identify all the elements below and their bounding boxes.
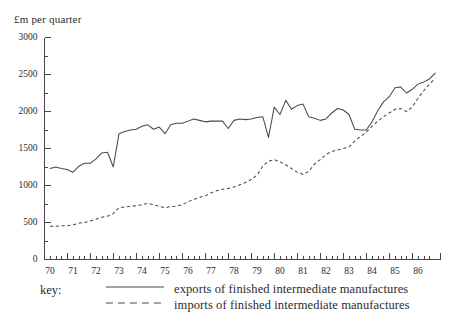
x-tick-label: 78 [224, 266, 244, 276]
chart-figure: £m per quarter 300025002000150010005000 … [0, 0, 456, 323]
x-tick-label: 75 [155, 266, 175, 276]
series-line [50, 73, 435, 172]
x-tick-label: 73 [109, 266, 129, 276]
legend-entry-exports: exports of finished intermediate manufac… [106, 282, 408, 297]
x-tick-label: 71 [63, 266, 83, 276]
y-tick-label: 0 [4, 254, 38, 264]
data-series [50, 73, 435, 226]
x-tick-label: 82 [316, 266, 336, 276]
x-tick-label: 79 [247, 266, 267, 276]
y-tick-label: 1000 [4, 180, 38, 190]
x-tick-label: 77 [201, 266, 221, 276]
y-tick-label: 2500 [4, 69, 38, 79]
x-tick-label: 81 [293, 266, 313, 276]
legend-key-label: key: [40, 283, 62, 298]
x-tick-label: 85 [385, 266, 405, 276]
x-tick-label: 86 [408, 266, 428, 276]
y-tick-label: 2000 [4, 106, 38, 116]
chart-legend: key: exports of finished intermediate ma… [0, 281, 456, 323]
legend-label-exports: exports of finished intermediate manufac… [174, 282, 408, 296]
x-tick-label: 72 [86, 266, 106, 276]
x-tick-label: 74 [132, 266, 152, 276]
legend-line-solid-icon [106, 283, 164, 291]
x-tick-label: 80 [270, 266, 290, 276]
axes [45, 38, 441, 260]
x-tick-label: 70 [40, 266, 60, 276]
legend-line-dashed-icon [106, 299, 164, 307]
y-axis-title: £m per quarter [14, 13, 82, 25]
x-tick-label: 84 [362, 266, 382, 276]
y-tick-label: 1500 [4, 143, 38, 153]
legend-label-imports: imports of finished intermediate manufac… [174, 298, 410, 312]
y-tick-label: 500 [4, 217, 38, 227]
y-tick-label: 3000 [4, 32, 38, 42]
x-tick-label: 76 [178, 266, 198, 276]
legend-entry-imports: imports of finished intermediate manufac… [106, 298, 410, 313]
x-tick-label: 83 [339, 266, 359, 276]
